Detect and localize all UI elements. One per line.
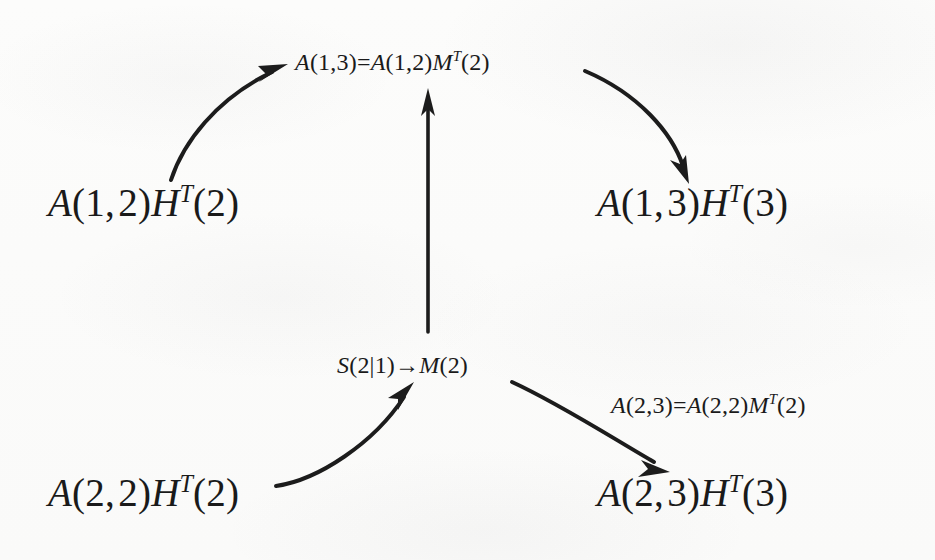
label-right-upper-term: A(1, 3)HT(3) [597,183,788,222]
label-right-middle-relation: A(2,3)=A(2,2)MT(2) [611,393,806,417]
arrow-vertical-center [421,88,435,332]
label-top-relation: A(1,3)=A(1,2)MT(2) [295,50,490,74]
label-left-lower-term: A(2, 2)HT(2) [48,473,239,512]
label-right-lower-term-text: A(2, 3)HT(3) [597,471,788,514]
arrow-upper-right [585,71,689,184]
diagram-page: A(1,3)=A(1,2)MT(2) A(1, 2)HT(2) A(1, 3)H… [0,0,935,560]
label-top-relation-text: A(1,3)=A(1,2)MT(2) [295,49,490,75]
arrow-upper-left [171,64,288,180]
label-left-upper-term: A(1, 2)HT(2) [48,183,239,222]
label-right-upper-term-text: A(1, 3)HT(3) [597,181,788,224]
label-left-lower-term-text: A(2, 2)HT(2) [48,471,239,514]
label-right-lower-term: A(2, 3)HT(3) [597,473,788,512]
label-middle-relation-text: S(2|1)→M(2) [337,352,468,378]
arrow-lower-left [276,382,414,486]
label-left-upper-term-text: A(1, 2)HT(2) [48,181,239,224]
label-right-middle-relation-text: A(2,3)=A(2,2)MT(2) [611,392,806,418]
label-middle-relation: S(2|1)→M(2) [337,353,468,377]
